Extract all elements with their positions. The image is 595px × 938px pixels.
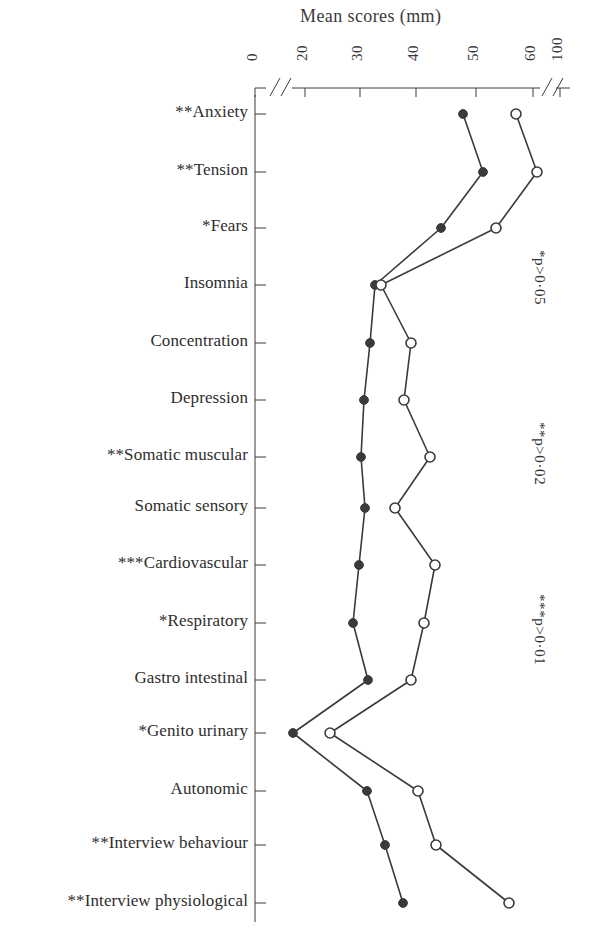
axis-break-slash-3	[553, 78, 563, 96]
data-point-filled-circle-5	[360, 396, 369, 405]
axis-group	[255, 78, 570, 922]
data-point-open-circle-9	[419, 618, 429, 628]
data-point-open-circle-6	[425, 452, 435, 462]
data-point-filled-circle-1	[479, 168, 488, 177]
data-point-filled-circle-14	[399, 899, 408, 908]
axis-break-slash-2	[542, 78, 552, 96]
data-point-open-circle-8	[430, 560, 440, 570]
data-point-filled-circle-9	[349, 619, 358, 628]
data-point-filled-circle-6	[357, 453, 366, 462]
plot-canvas	[0, 0, 595, 938]
data-point-open-circle-12	[413, 786, 423, 796]
data-point-filled-circle-2	[437, 224, 446, 233]
data-point-open-circle-7	[390, 503, 400, 513]
axis-break-slash-0	[270, 78, 280, 96]
mean-scores-figure: Mean scores (mm) 02030405060100 **Anxiet…	[0, 0, 595, 938]
data-point-filled-circle-13	[381, 841, 390, 850]
data-point-open-circle-13	[431, 840, 441, 850]
data-point-open-circle-1	[532, 167, 542, 177]
data-point-open-circle-11	[325, 728, 335, 738]
series-lines-group	[293, 114, 537, 903]
data-point-open-circle-0	[511, 109, 521, 119]
data-point-open-circle-10	[406, 675, 416, 685]
data-point-filled-circle-10	[364, 676, 373, 685]
data-point-open-circle-2	[491, 223, 501, 233]
series-line-filled-circle-series	[293, 114, 483, 903]
axis-break-slash-1	[281, 78, 291, 96]
data-point-open-circle-3	[376, 280, 386, 290]
data-point-filled-circle-12	[363, 787, 372, 796]
data-point-filled-circle-11	[289, 729, 298, 738]
data-point-open-circle-5	[399, 395, 409, 405]
data-point-filled-circle-4	[366, 339, 375, 348]
data-point-filled-circle-8	[355, 561, 364, 570]
series-markers-group	[289, 109, 542, 908]
data-point-filled-circle-7	[361, 504, 370, 513]
data-point-open-circle-14	[504, 898, 514, 908]
data-point-open-circle-4	[406, 338, 416, 348]
data-point-filled-circle-0	[459, 110, 468, 119]
